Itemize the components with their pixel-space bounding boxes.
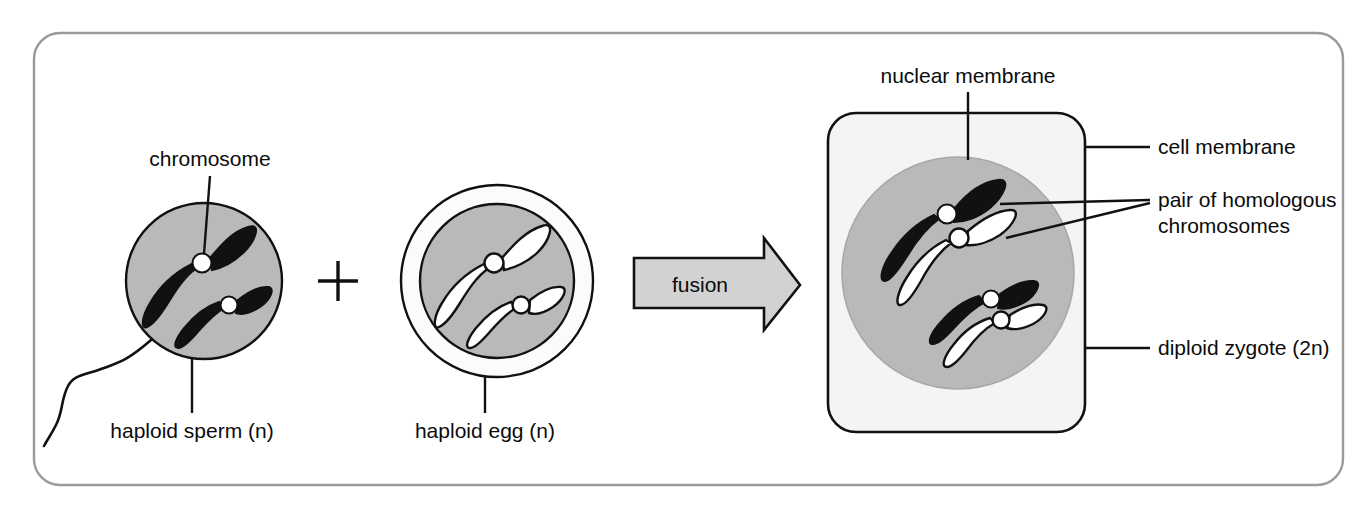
fertilization-diagram: chromosome haploid sperm (n) haploid egg… [0,0,1369,508]
centromere [221,297,238,314]
centromere [983,291,1000,308]
label-haploid-egg: haploid egg (n) [415,419,555,442]
sperm-cytoplasm [126,203,282,359]
label-nuclear-membrane: nuclear membrane [880,64,1055,87]
label-fusion: fusion [672,273,728,296]
plus-sign [318,261,358,301]
zygote-cell: nuclear membrane cell membrane pair of h… [828,64,1337,432]
label-haploid-sperm: haploid sperm (n) [110,419,273,442]
label-pair-homologous-line1: pair of homologous [1158,188,1337,211]
egg-cell: haploid egg (n) [401,185,593,442]
centromere [993,312,1010,329]
label-pair-homologous-line2: chromosomes [1158,214,1290,237]
label-diploid-zygote: diploid zygote (2n) [1158,336,1330,359]
centromere [513,297,530,314]
centromere [193,254,212,273]
centromere [485,254,504,273]
fusion-arrow: fusion [634,238,800,330]
centromere [950,229,969,248]
sperm-cell: chromosome haploid sperm (n) [44,147,282,446]
egg-nucleus [420,204,574,358]
centromere [938,205,957,224]
figure-root: chromosome haploid sperm (n) haploid egg… [0,0,1369,508]
label-chromosome: chromosome [149,147,270,170]
label-cell-membrane: cell membrane [1158,135,1296,158]
